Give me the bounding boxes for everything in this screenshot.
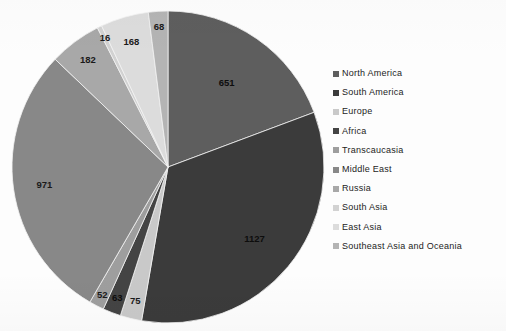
legend-item-label: Europe — [342, 107, 373, 116]
legend-item-label: South America — [342, 88, 404, 97]
legend-item[interactable]: North America — [333, 64, 503, 83]
legend-swatch-icon — [333, 167, 339, 173]
legend-item-label: Southeast Asia and Oceania — [342, 242, 462, 251]
legend-item[interactable]: Middle East — [333, 160, 503, 179]
legend-swatch-icon — [333, 224, 339, 230]
pie-slice-label: 168 — [123, 36, 139, 47]
pie-chart-plot-area: 65111277563529711821616868 — [8, 4, 328, 329]
legend-item[interactable]: East Asia — [333, 218, 503, 237]
legend-item-label: Middle East — [342, 165, 392, 174]
legend-swatch-icon — [333, 205, 339, 211]
legend-item-label: East Asia — [342, 223, 382, 232]
legend-item-label: Africa — [342, 127, 367, 136]
pie-slice-label: 52 — [97, 289, 108, 300]
pie-chart-figure: 65111277563529711821616868 North America… — [0, 0, 506, 331]
legend-item-label: Transcaucasia — [342, 146, 403, 155]
legend-item[interactable]: Russia — [333, 179, 503, 198]
legend-item[interactable]: South Asia — [333, 198, 503, 217]
pie-slice-label: 182 — [80, 54, 96, 65]
legend-item[interactable]: Europe — [333, 102, 503, 121]
pie-slice-label: 651 — [219, 77, 236, 88]
legend-item[interactable]: South America — [333, 83, 503, 102]
legend-swatch-icon — [333, 186, 339, 192]
legend-item[interactable]: Africa — [333, 122, 503, 141]
legend-item[interactable]: Southeast Asia and Oceania — [333, 237, 503, 256]
legend-swatch-icon — [333, 90, 339, 96]
pie-slice-group — [12, 11, 324, 323]
legend-swatch-icon — [333, 243, 339, 249]
pie-svg: 65111277563529711821616868 — [8, 4, 328, 329]
legend-swatch-icon — [333, 109, 339, 115]
pie-slice-label: 971 — [37, 179, 54, 190]
pie-slice-label: 63 — [112, 292, 123, 303]
pie-slice-label: 75 — [130, 295, 141, 306]
chart-legend: North AmericaSouth AmericaEuropeAfricaTr… — [333, 64, 503, 256]
legend-swatch-icon — [333, 128, 339, 134]
legend-item-label: Russia — [342, 184, 371, 193]
legend-item[interactable]: Transcaucasia — [333, 141, 503, 160]
pie-slice-label: 68 — [154, 21, 165, 32]
legend-item-label: North America — [342, 69, 402, 78]
legend-swatch-icon — [333, 147, 339, 153]
pie-slice-label: 1127 — [244, 233, 265, 244]
legend-swatch-icon — [333, 71, 339, 77]
legend-item-label: South Asia — [342, 203, 388, 212]
pie-slice-label: 16 — [100, 32, 111, 43]
